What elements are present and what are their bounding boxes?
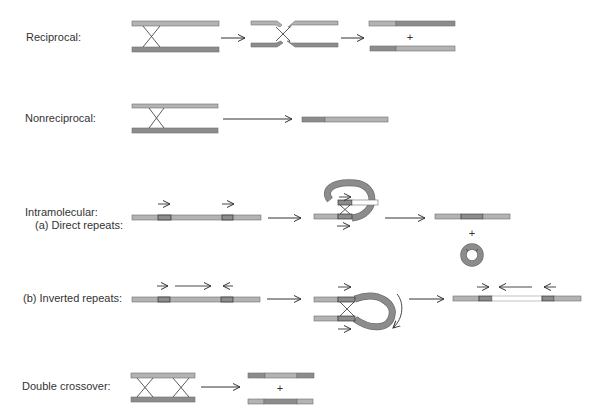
double-crossover-row: +	[131, 373, 314, 404]
nonreciprocal-row	[132, 104, 388, 133]
plus-sign: +	[407, 31, 413, 43]
reciprocal-row: +	[132, 21, 455, 52]
recombination-diagram: + +	[0, 0, 600, 419]
plus-sign: +	[469, 227, 475, 239]
plus-sign: +	[277, 382, 283, 394]
direct-repeats-row: +	[132, 183, 510, 264]
inverted-repeats-row	[132, 286, 581, 329]
